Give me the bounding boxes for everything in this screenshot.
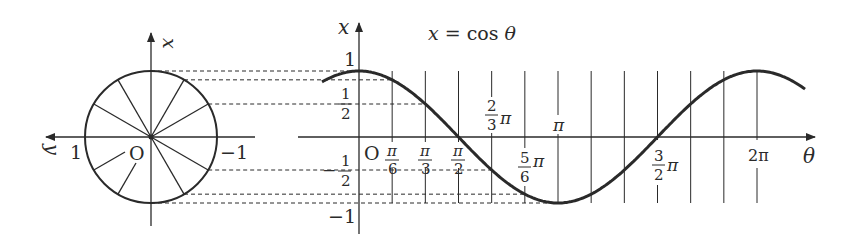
tick-denominator: 3 — [487, 116, 497, 134]
theta-tick-2pi: 2π — [748, 146, 769, 165]
theta-tick-pi-2: π 2 — [451, 142, 465, 178]
graph-origin-label: O — [364, 142, 380, 164]
cosine-unit-circle-diagram: x y 1 O −1 x = cos θ x θ O 1 1 2 − 1 2 — [0, 0, 856, 247]
y-tick-neg-half-denominator: 2 — [341, 172, 351, 190]
circle-spoke — [151, 137, 184, 194]
tick-pi: π — [499, 108, 512, 128]
circle-spoke — [94, 152, 125, 170]
theta-tick-5pi-6: 5 6 π — [518, 149, 545, 186]
circle-label-origin: O — [129, 142, 145, 164]
theta-tick-pi-3: π 3 — [418, 142, 432, 178]
graph-x-axis-label: θ — [803, 144, 815, 168]
circle-spoke — [151, 80, 184, 137]
tick-denominator: 2 — [654, 166, 664, 184]
circle-spoke — [118, 80, 151, 137]
y-tick-one: 1 — [344, 48, 356, 70]
tick-denominator: 2 — [454, 160, 464, 178]
circle-spoke — [118, 163, 136, 194]
theta-tick-labels: π 6 π 3 π 2 2 3 π — [385, 97, 769, 186]
y-tick-half: 1 2 — [338, 85, 351, 123]
y-tick-neg-one: −1 — [328, 205, 356, 227]
circle-y-axis-label: y — [42, 143, 64, 155]
y-tick-half-numerator: 1 — [341, 85, 351, 103]
unit-circle-group: x y 1 O −1 — [42, 33, 558, 226]
tick-numerator: π — [452, 142, 464, 160]
theta-tick-pi-6: π 6 — [385, 142, 399, 178]
tick-pi: π — [532, 151, 545, 171]
circle-spoke — [151, 104, 208, 137]
tick-pi: π — [666, 155, 679, 175]
tick-numerator: π — [419, 142, 431, 160]
theta-tick-pi: π — [552, 115, 565, 135]
graph-y-axis-label: x — [338, 15, 349, 39]
circle-spoke — [94, 104, 151, 137]
tick-numerator: 5 — [520, 149, 530, 167]
circle-x-axis-label: x — [159, 38, 181, 49]
y-tick-neg-half: − 1 2 — [322, 152, 351, 190]
y-tick-neg-half-numerator: 1 — [341, 152, 351, 170]
cosine-graph-group: x = cos θ x θ O 1 1 2 − 1 2 −1 π 6 — [298, 15, 815, 234]
tick-numerator: 3 — [654, 147, 664, 165]
circle-label-neg-one: −1 — [220, 141, 248, 163]
circle-spoke — [151, 137, 208, 170]
y-tick-half-denominator: 2 — [341, 105, 351, 123]
tick-numerator: 2 — [487, 97, 497, 115]
graph-title: x = cos θ — [428, 22, 517, 44]
tick-numerator: π — [386, 142, 398, 160]
y-tick-neg-half-sign: − — [322, 160, 336, 180]
circle-center-dot — [149, 135, 154, 140]
tick-denominator: 6 — [520, 168, 530, 186]
theta-tick-3pi-2: 3 2 π — [652, 147, 679, 184]
circle-label-one: 1 — [70, 141, 82, 163]
tick-denominator: 3 — [421, 160, 431, 178]
theta-tick-2pi-3: 2 3 π — [485, 97, 512, 134]
tick-denominator: 6 — [388, 160, 398, 178]
